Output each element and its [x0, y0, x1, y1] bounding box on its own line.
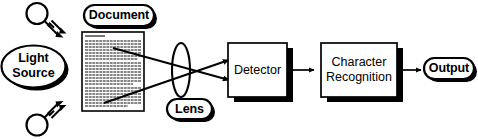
light-source-label-line1: Light	[18, 51, 49, 65]
node-character-recognition[interactable]: Character Recognition	[321, 43, 403, 102]
node-lens-label[interactable]: Lens	[167, 99, 215, 122]
light-bulb-icon-bottom	[27, 101, 67, 136]
node-output[interactable]: Output	[424, 58, 477, 82]
node-document-label[interactable]: Document	[84, 5, 157, 29]
node-light-source[interactable]: Light Source	[2, 46, 69, 91]
light-source-label-line2: Source	[12, 66, 54, 80]
character-recognition-label-line1: Character	[332, 55, 387, 69]
document-label: Document	[89, 8, 150, 22]
lens-label: Lens	[175, 102, 204, 116]
diagram-canvas: Light Source Document	[0, 0, 478, 139]
light-bulb-icon-top	[27, 3, 67, 38]
detector-label: Detector	[234, 63, 281, 77]
output-label: Output	[429, 61, 470, 75]
character-recognition-label-line2: Recognition	[326, 70, 392, 84]
ocr-block-diagram: Light Source Document	[0, 0, 478, 139]
lens-glyph	[172, 43, 190, 97]
node-detector[interactable]: Detector	[228, 43, 293, 102]
